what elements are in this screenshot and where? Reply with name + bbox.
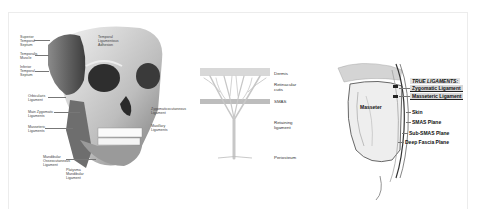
label-zygomaticocutaneous-ligament: Zygomaticocutaneous Ligament [151,107,186,115]
leader-line [406,112,411,113]
skull-illustration [0,0,200,209]
highlight-zygomatic-ligament: Zygomatic Ligament [410,85,463,92]
label-mandibular-osseocutaneous-ligament: Mandibular Osseocutaneous Ligament [43,155,70,167]
leader-line [45,128,73,129]
label-smas: SMAS [274,99,286,104]
label-inferior-temporal-septum: Inferior Temporal Septum [20,65,35,77]
label-retaining-ligament: Retaining ligament [274,120,293,130]
label-skin: Skin [412,109,423,115]
label-orbicularis-ligament: Orbicularis Ligament [28,94,45,102]
label-masseter: Masseter [360,104,382,110]
leader-line [54,112,80,113]
label-smas-plane: SMAS Plane [412,119,441,125]
highlight-masseteric-ligament: Masseteric Ligament [410,93,463,100]
leader-line [399,96,410,97]
retaining-ligament-layers-panel: Dermis Retinacular cutis SMAS Retaining … [200,0,320,209]
label-dermis: Dermis [274,71,288,76]
label-retinacular-cutis: Retinacular cutis [274,82,296,92]
label-periosteum: Periosteum [274,155,296,160]
skull-ligaments-panel: Superior Temporal Septum Temporalis Musc… [0,0,200,209]
leader-line [34,40,50,41]
leader-line [406,122,411,123]
label-temporalis-muscle: Temporalis Muscle [20,52,37,60]
label-platysma-mandibular-ligament: Platysma Mandibular Ligament [66,168,84,180]
label-superior-temporal-septum: Superior Temporal Septum [20,35,35,47]
true-ligaments-panel: TRUE LIGAMENTS: Zygomatic Ligament Masse… [330,0,478,209]
masseter-cross-section-illustration [330,0,478,209]
leader-line [402,133,408,134]
label-deep-fascia-plane: Deep Fascia Plane [405,139,449,145]
label-temporal-ligamentous-adhesion: Temporal Ligamentous Adhesion [98,35,119,47]
leader-line [398,142,404,143]
label-main-zygomatic-ligaments: Main Zygomatic Ligaments [28,110,53,118]
leader-line [66,159,96,160]
leader-line [35,55,49,56]
label-masseteric-ligaments: Masseteric Ligaments [28,125,45,133]
leader-line [399,88,410,89]
true-ligaments-title: TRUE LIGAMENTS: [410,78,460,84]
label-maxillary-ligaments: Maxillary Ligaments [151,124,168,132]
leader-line [48,97,66,98]
leader-line [35,71,49,72]
label-sub-smas-plane: Sub-SMAS Plane [409,130,449,136]
retaining-ligament-tree-illustration [200,0,320,209]
